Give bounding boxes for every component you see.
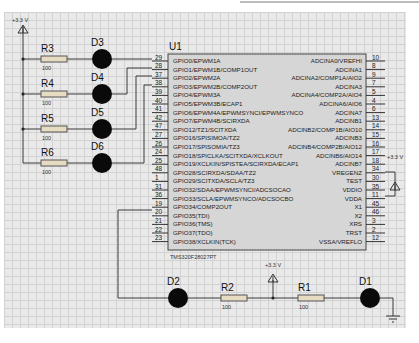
pin-number: 39: [155, 88, 163, 95]
svg-text:100: 100: [42, 169, 51, 175]
pin-name: GPIO19/XCLKIN/SPISTEA/SCIRXDA/ECAP1: [173, 160, 299, 167]
pin-name: GPIO4/EPWM3A: [173, 91, 221, 98]
resistor-r3[interactable]: R3 100: [41, 43, 67, 71]
pin-number: 35: [372, 183, 380, 190]
pin-number: 18: [372, 157, 380, 164]
power-label-top-left: +3.3 V: [12, 17, 28, 23]
pin-name: ADCINA4/COMP2A/AIO4: [292, 91, 363, 98]
resistor-r6[interactable]: R6 100: [41, 147, 67, 175]
pin-number: 29: [155, 54, 163, 61]
led-d2[interactable]: D2: [167, 276, 188, 308]
chip-part-number: TMS320F28027PT: [170, 254, 217, 260]
pin-name: ADCINA1: [335, 66, 362, 73]
pin-number: 21: [155, 217, 163, 224]
svg-text:R4: R4: [41, 78, 54, 89]
pin-name: ADCINB4/COMP2B/AIO12: [288, 143, 362, 150]
pin-number: 10: [372, 54, 380, 61]
led-d1[interactable]: D1: [359, 276, 380, 308]
pin-name: GPIO3/EPWM2B/COMP2OUT: [173, 83, 257, 90]
svg-text:D6: D6: [91, 141, 104, 152]
pin-number: 25: [155, 157, 163, 164]
pin-name: ADCINB2/COMP1B/AIO10: [288, 126, 362, 133]
schematic-canvas[interactable]: +3.3 V +3.3 V +3.3 V R3 100 R4 100 R5 10…: [0, 0, 419, 343]
pin-number: 20: [155, 208, 163, 215]
pin-name: XRS: [349, 220, 362, 227]
pin-number: 26: [155, 140, 163, 147]
pin-name: GPIO32/SDAA/EPWMSYNCI/ADCSOCAO: [173, 186, 291, 193]
pin-name: ADCINA2/COMP1A/AIO2: [292, 74, 363, 81]
pin-number: 8: [372, 62, 376, 69]
pin-number: 12: [372, 234, 380, 241]
pin-name: GPIO28/SCIRXDA/SDAA/TZ2: [173, 169, 256, 176]
pin-name: ADCINA6/AIO6: [319, 100, 362, 107]
svg-text:D5: D5: [91, 107, 104, 118]
svg-text:100: 100: [222, 304, 231, 310]
led-d6[interactable]: D6: [91, 141, 112, 173]
pin-name: TRST: [346, 229, 362, 236]
pin-number: 34: [372, 165, 380, 172]
pin-name: X2: [354, 212, 362, 219]
pin-name: GPIO5/EPWM3B/ECAP1: [173, 100, 243, 107]
pin-name: TEST: [346, 177, 362, 184]
pin-name: ADCINB1: [335, 117, 362, 124]
pin-number: 1: [155, 174, 159, 181]
pin-name: GPIO1/EPWM1B/COMP1OUT: [173, 66, 257, 73]
pin-number: 14: [372, 122, 380, 129]
pin-number: 40: [155, 97, 163, 104]
pin-name: VDDIO: [342, 186, 362, 193]
pin-name: GPIO18/SPICLKA/SCITXDA/XCLKOUT: [173, 152, 283, 159]
resistor-r4[interactable]: R4 100: [41, 78, 67, 106]
svg-text:100: 100: [299, 304, 308, 310]
pin-number: 46: [372, 208, 380, 215]
led-d3[interactable]: D3: [91, 37, 112, 69]
pin-number: 27: [155, 131, 163, 138]
pin-name: GPIO2/EPWM2A: [173, 74, 221, 81]
pin-number: 19: [155, 200, 163, 207]
svg-text:D4: D4: [91, 72, 104, 83]
pin-name: ADCINB6/AIO14: [316, 152, 363, 159]
power-label-bottom: +3.3 V: [265, 262, 281, 268]
pin-number: 30: [372, 174, 380, 181]
pin-number: 36: [155, 191, 163, 198]
pin-name: GPIO6/EPWM4A/EPWMSYNCI/EPWMSYNCO: [173, 109, 303, 116]
pin-name: GPIO0/EPWM1A: [173, 57, 221, 64]
pin-name: GPIO33/SCLA/EPWMSYNCO/ADCSOCBO: [173, 195, 294, 202]
svg-text:100: 100: [42, 65, 51, 71]
svg-text:100: 100: [42, 100, 51, 106]
resistor-r2[interactable]: R2 100: [221, 282, 247, 310]
power-symbol-top-left: +3.3 V: [12, 17, 28, 33]
led-d5[interactable]: D5: [91, 107, 112, 139]
svg-text:D2: D2: [167, 276, 180, 287]
svg-text:R2: R2: [221, 282, 234, 293]
pin-number: 5: [372, 88, 376, 95]
svg-text:R1: R1: [298, 282, 311, 293]
pin-number: 16: [372, 140, 380, 147]
pin-number: 31: [155, 183, 163, 190]
svg-text:R5: R5: [41, 113, 54, 124]
pin-number: 23: [155, 234, 163, 241]
pin-number: 47: [155, 122, 163, 129]
pin-number: 48: [155, 165, 163, 172]
pin-number: 9: [372, 71, 376, 78]
pin-name: ADCINB3: [335, 134, 362, 141]
svg-text:100: 100: [42, 135, 51, 141]
pin-name: ADCINA3: [335, 83, 362, 90]
pin-name: VSSA/VREFLO: [319, 238, 362, 245]
pin-number: 2: [372, 226, 376, 233]
resistor-r1[interactable]: R1 100: [298, 282, 324, 310]
pin-name: GPIO37(TDO): [173, 229, 213, 236]
pin-number: 28: [155, 62, 163, 69]
svg-text:R3: R3: [41, 43, 54, 54]
pin-number: 24: [155, 148, 163, 155]
pin-name: GPIO35(TDI): [173, 212, 209, 219]
pin-name: GPIO16/SPISIMOA/TZ2: [173, 134, 240, 141]
pin-number: 38: [155, 79, 163, 86]
chip-ref: U1: [169, 41, 182, 52]
pin-name: VDDA: [345, 195, 363, 202]
pin-number: 11: [372, 191, 379, 198]
pin-number: 3: [372, 217, 376, 224]
led-d4[interactable]: D4: [91, 72, 112, 104]
pin-number: 22: [155, 226, 163, 233]
svg-text:D3: D3: [91, 37, 104, 48]
resistor-r5[interactable]: R5 100: [41, 113, 67, 141]
